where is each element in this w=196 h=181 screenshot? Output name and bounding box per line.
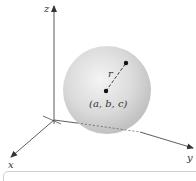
y-axis [140,132,193,148]
diagram-canvas: z x y r (a, b, c) [0,0,196,181]
x-axis [11,120,54,157]
caption-box [3,171,196,181]
center-label: (a, b, c) [89,98,128,109]
y-axis-label: y [186,152,193,163]
center-point [104,89,108,93]
origin-tick [43,116,61,124]
sphere-diagram: z x y r (a, b, c) [0,0,196,181]
z-axis-label: z [43,3,50,14]
surface-point [124,61,128,65]
x-axis-label: x [8,159,14,170]
